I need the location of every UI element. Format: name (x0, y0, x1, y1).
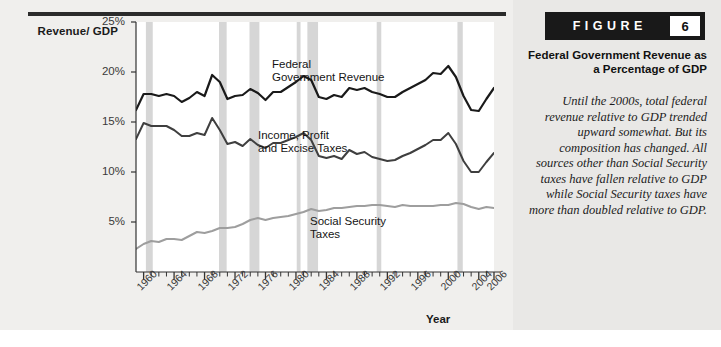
recession-band (146, 22, 153, 272)
series-label-social-security-taxes: Social Security Taxes (310, 215, 386, 241)
figure-badge-label: FIGURE (545, 19, 670, 33)
chart-panel: Revenue/ GDP 25%20%15%10%5% Federal Gove… (28, 12, 506, 318)
y-axis-tick-label: 25% (79, 15, 125, 27)
figure-badge-number: 6 (670, 16, 700, 36)
figure-badge: FIGURE 6 (545, 12, 705, 40)
x-axis-title: Year (426, 313, 450, 325)
figure-page: Revenue/ GDP 25%20%15%10%5% Federal Gove… (0, 0, 721, 347)
series-label-income-profit-excise-taxes: Income, Profit and Excise Taxes (258, 129, 347, 155)
x-axis-tick-labels: 1960196419681972197619801984198819921996… (136, 278, 506, 318)
y-axis-tick-label: 20% (79, 65, 125, 77)
plot-wrapper: Revenue/ GDP 25%20%15%10%5% Federal Gove… (28, 16, 506, 318)
figure-caption: Until the 2000s, total federal revenue r… (523, 94, 707, 218)
caption-panel: FIGURE 6 Federal Government Revenue as a… (513, 0, 721, 330)
y-axis-tick-label: 15% (79, 115, 125, 127)
recession-band (219, 22, 227, 272)
series-label-federal-government-revenue: Federal Government Revenue (272, 58, 385, 84)
y-axis-tick-label: 5% (79, 215, 125, 227)
y-axis-tick-label: 10% (79, 165, 125, 177)
page-footer-strip (0, 330, 721, 347)
figure-title: Federal Government Revenue as a Percenta… (527, 48, 707, 76)
